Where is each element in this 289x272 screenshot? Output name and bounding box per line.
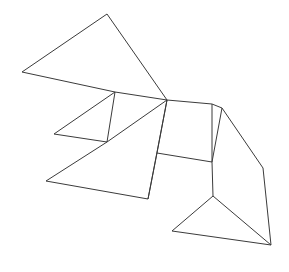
edge-notchright-to-bottomleftlow bbox=[172, 196, 213, 231]
tangram-figure bbox=[0, 0, 289, 272]
drawing-canvas bbox=[0, 0, 289, 272]
edge-left-to-notch bbox=[22, 72, 115, 92]
edge-rightcorner-to-squareright bbox=[212, 108, 222, 162]
edge-smallleft-to-lowernotch bbox=[54, 134, 107, 142]
edge-notch-to-smallleft bbox=[54, 92, 115, 134]
edge-square-bottom bbox=[157, 153, 212, 162]
edge-notch-to-hub bbox=[115, 92, 167, 100]
edge-lowernotch-to-hub bbox=[107, 100, 167, 142]
edge-lowernotch-to-bottomleft bbox=[46, 142, 107, 181]
edge-bottomleft-to-bottommid bbox=[46, 181, 148, 199]
edge-notch-down bbox=[107, 92, 115, 142]
edge-rightsquare-to-rightcorner bbox=[212, 104, 222, 108]
edge-square-bottomleft-down bbox=[148, 153, 157, 199]
edge-hub-to-rightsquare-top bbox=[167, 100, 212, 104]
edge-rightcorner-to-farright bbox=[222, 108, 263, 168]
edge-group bbox=[22, 14, 271, 245]
edge-topleft-apex-left bbox=[22, 14, 107, 72]
edge-hub-to-square-bottomleft bbox=[157, 100, 167, 153]
edge-apex-hub bbox=[107, 14, 167, 100]
edge-squareright-to-notchright bbox=[212, 162, 213, 196]
edge-farright-to-bottomright bbox=[263, 168, 271, 245]
